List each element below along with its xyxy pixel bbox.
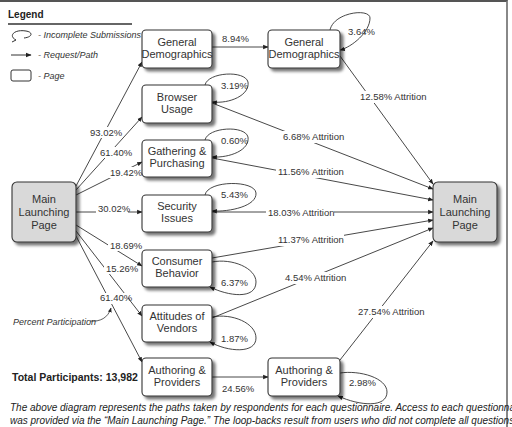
incomplete-security: 5.43% bbox=[221, 189, 248, 200]
incomplete-attitudes: 1.87% bbox=[221, 333, 248, 344]
attrition-general-demographics: 12.58% Attrition bbox=[360, 91, 427, 102]
node-label: General bbox=[157, 36, 196, 48]
participation-general-demographics: 93.02% bbox=[90, 127, 123, 138]
node-label: Behavior bbox=[155, 267, 199, 279]
edge-attrition-authoring bbox=[340, 241, 433, 360]
attrition-consumer: 11.37% Attrition bbox=[278, 234, 344, 245]
legend-request-label: - Request/Path bbox=[38, 50, 98, 60]
loop-icon bbox=[12, 31, 31, 40]
participation-attitudes: 15.26% bbox=[106, 263, 139, 274]
participation-consumer: 18.69% bbox=[110, 240, 143, 251]
attrition-gathering: 11.56% Attrition bbox=[278, 166, 344, 177]
node-label: Main bbox=[453, 193, 477, 205]
participation-security: 30.02% bbox=[98, 203, 131, 214]
caption: The above diagram represents the paths t… bbox=[10, 401, 510, 427]
participation-gathering: 19.42% bbox=[110, 167, 143, 178]
node-label: Issues bbox=[161, 212, 193, 224]
node-label: Launching bbox=[440, 206, 491, 218]
attrition-security: 18.03% Attrition bbox=[268, 207, 335, 218]
incomplete-general-demographics: 3.64% bbox=[348, 26, 375, 37]
node-consumer-behavior: Consumer Behavior bbox=[142, 250, 212, 287]
caption-line-2: was provided via the “Main Launching Pag… bbox=[10, 414, 510, 427]
incomplete-gathering: 0.60% bbox=[221, 135, 248, 146]
node-gathering-purchasing: Gathering & Purchasing bbox=[142, 140, 212, 177]
node-label: Demographics bbox=[142, 48, 213, 60]
legend-page-label: - Page bbox=[38, 71, 65, 81]
node-general-demographics-1: General Demographics bbox=[142, 30, 213, 68]
node-general-demographics-2: General Demographics bbox=[268, 30, 340, 68]
node-label: Providers bbox=[281, 376, 328, 388]
node-label: Main bbox=[32, 193, 56, 205]
incomplete-browser: 3.19% bbox=[221, 80, 248, 91]
incomplete-consumer: 6.37% bbox=[221, 277, 248, 288]
total-participants: Total Participants: 13,982 bbox=[12, 371, 138, 383]
node-label: Usage bbox=[161, 103, 193, 115]
node-security-issues: Security Issues bbox=[142, 195, 212, 232]
node-authoring-providers-1: Authoring & Providers bbox=[142, 358, 212, 396]
caption-line-1: The above diagram represents the paths t… bbox=[10, 401, 510, 414]
node-label: Page bbox=[452, 219, 478, 231]
node-browser-usage: Browser Usage bbox=[142, 85, 212, 123]
node-authoring-providers-2: Authoring & Providers bbox=[268, 358, 340, 396]
continuation-general-demographics: 8.94% bbox=[222, 33, 249, 44]
main-launching-page-right: Main Launching Page bbox=[433, 182, 497, 242]
legend-title: Legend bbox=[8, 9, 44, 20]
loop-icon-tail bbox=[12, 40, 16, 42]
page-icon bbox=[11, 70, 31, 81]
node-label: Authoring & bbox=[148, 364, 206, 376]
attrition-labels: 12.58% Attrition 6.68% Attrition 11.56% … bbox=[266, 91, 427, 318]
percent-participation-annotation: Percent Participation bbox=[13, 317, 96, 327]
node-label: Authoring & bbox=[275, 364, 333, 376]
edge-attrition-gd bbox=[340, 56, 433, 184]
node-label: General bbox=[284, 36, 323, 48]
attrition-authoring: 27.54% Attrition bbox=[358, 306, 425, 317]
attrition-attitudes: 4.54% Attrition bbox=[285, 272, 346, 283]
node-label: Consumer bbox=[152, 255, 203, 267]
attrition-browser: 6.68% Attrition bbox=[283, 131, 344, 142]
continuation-authoring: 24.56% bbox=[222, 383, 255, 394]
flow-diagram: Legend - Incomplete Submissions - Reques… bbox=[0, 0, 512, 427]
node-label: Page bbox=[31, 219, 57, 231]
legend-incomplete-label: - Incomplete Submissions bbox=[38, 30, 142, 40]
node-label: Gathering & bbox=[148, 145, 207, 157]
node-label: Vendors bbox=[157, 322, 198, 334]
node-label: Attitudes of bbox=[149, 310, 205, 322]
node-label: Security bbox=[157, 200, 197, 212]
node-label: Demographics bbox=[269, 48, 340, 60]
node-label: Browser bbox=[157, 91, 198, 103]
node-label: Purchasing bbox=[149, 157, 204, 169]
participation-labels: 93.02% 61.40% 19.42% 30.02% 18.69% 15.26… bbox=[88, 127, 143, 304]
incomplete-authoring: 2.98% bbox=[349, 377, 376, 388]
node-attitudes-vendors: Attitudes of Vendors bbox=[142, 305, 212, 342]
participation-browser-usage: 61.40% bbox=[100, 147, 133, 158]
node-label: Providers bbox=[154, 376, 201, 388]
participation-authoring: 61.40% bbox=[100, 292, 133, 303]
main-launching-page-left: Main Launching Page bbox=[12, 182, 76, 242]
legend: Legend - Incomplete Submissions - Reques… bbox=[8, 9, 142, 81]
node-label: Launching bbox=[19, 206, 70, 218]
